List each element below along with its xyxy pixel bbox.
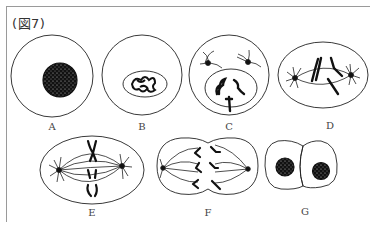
label-d: D (326, 120, 334, 131)
label-e: E (88, 207, 95, 218)
label-c: C (225, 121, 233, 132)
cell-c (189, 35, 269, 115)
nucleus-a (43, 63, 77, 97)
cell-f (157, 138, 258, 195)
cell-a (11, 35, 93, 117)
cell-b (102, 35, 182, 115)
label-b: B (138, 121, 145, 132)
cell-g (265, 141, 337, 190)
label-a: A (48, 121, 55, 132)
cell-d (278, 42, 368, 108)
cell-e (40, 136, 144, 204)
cell-division-diagram (0, 0, 375, 225)
label-g: G (301, 206, 309, 217)
label-f: F (205, 207, 212, 218)
